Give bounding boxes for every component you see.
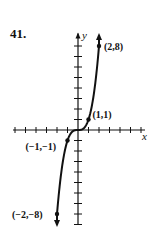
point-label: (1,1) bbox=[93, 109, 112, 121]
curve-top-arrow-icon bbox=[96, 33, 102, 40]
point-label: (−2,−8) bbox=[12, 209, 43, 221]
data-point bbox=[65, 138, 69, 142]
data-point bbox=[97, 44, 101, 48]
x-axis-label: x bbox=[141, 130, 147, 142]
curve-bottom-arrow-icon bbox=[54, 220, 60, 227]
data-point bbox=[55, 212, 59, 216]
data-point bbox=[86, 117, 90, 121]
point-label: (2,8) bbox=[104, 41, 123, 53]
y-axis-label: y bbox=[81, 29, 87, 41]
point-label: (−1,−1) bbox=[26, 141, 57, 153]
cubic-function-graph: xy(−2,−8)(−1,−1)(1,1)(2,8) bbox=[0, 0, 151, 237]
y-axis-arrow-icon bbox=[76, 33, 81, 39]
